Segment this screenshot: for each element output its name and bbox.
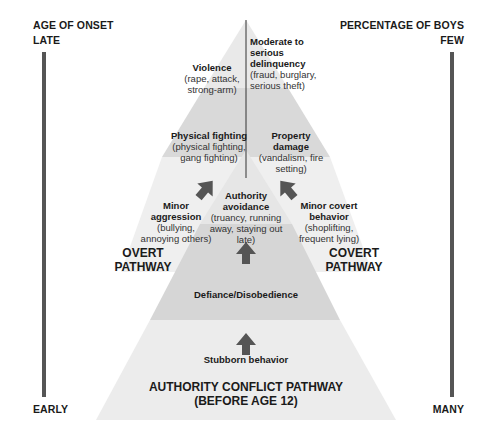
minor-covert-behavior-label: Minor covert behavior (shoplifting, freq…: [290, 200, 368, 244]
right-axis-bar: [450, 52, 454, 397]
defiance-disobedience-label: Defiance/Disobedience: [186, 289, 306, 300]
stubborn-behavior-label: Stubborn behavior: [196, 354, 296, 365]
authority-avoidance-label: Authority avoidance (truancy, running aw…: [203, 190, 289, 245]
covert-pathway-label: COVERT PATHWAY: [322, 246, 386, 274]
boys-many-label: MANY: [433, 403, 464, 415]
property-damage-label: Property damage (vandalism, fire setting…: [258, 130, 324, 174]
boys-few-label: FEW: [440, 34, 464, 46]
percentage-of-boys-title: PERCENTAGE OF BOYS: [340, 19, 464, 31]
moderate-serious-delinquency-label: Moderate to serious delinquency (fraud, …: [250, 36, 326, 91]
minor-aggression-label: Minor aggression (bullying, annoying oth…: [140, 200, 212, 244]
violence-label: Violence (rape, attack, strong-arm): [180, 62, 244, 95]
left-axis-bar: [42, 52, 46, 397]
age-late-label: LATE: [33, 34, 60, 46]
age-early-label: EARLY: [33, 403, 68, 415]
overt-pathway-label: OVERT PATHWAY: [113, 246, 173, 274]
physical-fighting-label: Physical fighting (physical fighting, ga…: [170, 130, 248, 163]
authority-conflict-pathway-label: AUTHORITY CONFLICT PATHWAY (BEFORE AGE 1…: [146, 380, 346, 408]
age-of-onset-title: AGE OF ONSET: [33, 19, 114, 31]
